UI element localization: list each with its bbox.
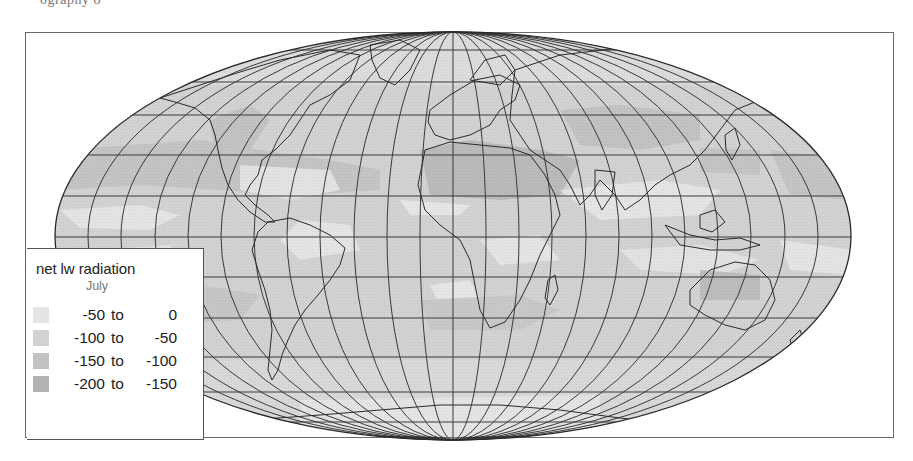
- legend-subtitle: July: [27, 279, 167, 293]
- legend-range-from: -100: [53, 329, 105, 347]
- legend-range-from: -50: [53, 306, 105, 324]
- legend-swatch: [33, 307, 49, 323]
- legend-swatch: [33, 376, 49, 392]
- legend-item: -100 to -50: [33, 330, 198, 347]
- legend-swatch: [33, 330, 49, 346]
- legend-range-end: -100: [129, 352, 177, 370]
- legend-range-to: to: [111, 306, 124, 324]
- legend-swatch: [33, 353, 49, 369]
- legend-item: -150 to -100: [33, 353, 198, 370]
- legend-range-end: -50: [129, 329, 177, 347]
- legend-range-end: 0: [129, 306, 177, 324]
- legend-range-to: to: [111, 329, 124, 347]
- legend-title: net lw radiation: [36, 260, 135, 277]
- legend-range-from: -150: [53, 352, 105, 370]
- legend-range-to: to: [111, 352, 124, 370]
- legend-range-from: -200: [53, 375, 105, 393]
- legend-range-to: to: [111, 375, 124, 393]
- legend-item: -50 to 0: [33, 307, 198, 324]
- legend-range-end: -150: [129, 375, 177, 393]
- map-legend: net lw radiation July -50 to 0 -100 to -…: [27, 248, 204, 440]
- legend-item: -200 to -150: [33, 376, 198, 393]
